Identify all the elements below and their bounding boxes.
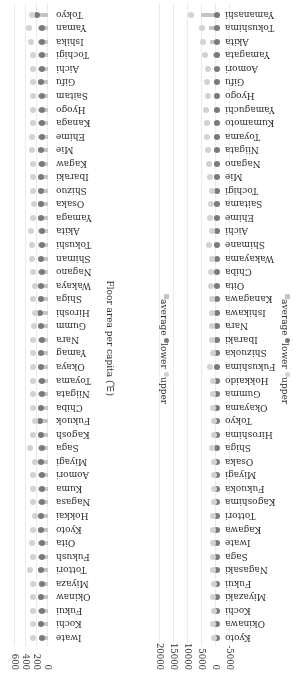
upper-dot xyxy=(204,120,210,126)
upper-dot xyxy=(209,310,215,316)
upper-dot xyxy=(30,364,36,370)
upper-dot xyxy=(30,215,36,221)
category-label: Hokkaido xyxy=(225,376,269,386)
chart-stage: -500005000100001500020000KyotoOkinawaKoc… xyxy=(0,0,298,676)
category-label: Hiroshima xyxy=(225,430,273,440)
upper-dot xyxy=(30,554,36,560)
lower-dot xyxy=(39,120,45,126)
category-label: Ishikawa xyxy=(225,308,266,318)
category-label: Yamagata xyxy=(225,50,270,60)
gridline xyxy=(187,3,188,646)
lower-dot xyxy=(214,147,220,153)
category-label: Aomori xyxy=(56,470,89,480)
lower-dot xyxy=(214,52,220,58)
lower-dot xyxy=(39,39,45,45)
category-label: Ishika xyxy=(56,37,84,47)
category-label: Shizuoka xyxy=(225,348,267,358)
lower-dot xyxy=(214,120,220,126)
category-label: Nara xyxy=(225,321,248,331)
lower-dot xyxy=(39,581,45,587)
category-label: Shiga xyxy=(225,443,251,453)
category-label: Yamanashi xyxy=(225,10,274,20)
upper-dot xyxy=(209,296,215,302)
category-label: Tochigi xyxy=(225,186,258,196)
lower-dot xyxy=(39,472,45,478)
category-label: Niigata xyxy=(56,389,90,399)
upper-dot xyxy=(30,635,36,641)
lower-dot xyxy=(39,93,45,99)
upper-dot xyxy=(29,39,35,45)
category-label: Yamaguchi xyxy=(225,105,275,115)
upper-dot xyxy=(210,391,216,397)
upper-dot xyxy=(207,364,213,370)
lower-dot xyxy=(214,242,220,248)
upper-dot xyxy=(30,432,36,438)
category-label: Fukuoka xyxy=(225,484,265,494)
lower-dot xyxy=(39,134,45,140)
category-label: Hiroshi xyxy=(56,308,90,318)
category-label: Chiba xyxy=(225,267,252,277)
upper-dot xyxy=(210,527,216,533)
upper-dot xyxy=(26,25,32,31)
category-label: Saitama xyxy=(225,199,262,209)
category-label: Kumamoto xyxy=(225,118,274,128)
category-label: Saitam xyxy=(56,91,88,101)
upper-dot xyxy=(29,147,35,153)
axis-tick-label: -5000 xyxy=(225,645,234,670)
lower-dot xyxy=(214,79,220,85)
category-label: Gumm xyxy=(56,321,86,331)
upper-dot xyxy=(206,242,212,248)
lower-dot xyxy=(39,486,45,492)
upper-dot xyxy=(211,486,217,492)
upper-dot xyxy=(29,242,35,248)
category-label: Iwate xyxy=(56,633,82,643)
lower-dot xyxy=(39,107,45,113)
lower-dot xyxy=(38,432,44,438)
upper-dot xyxy=(209,256,215,262)
category-label: Kagosh xyxy=(56,430,90,440)
category-label: Miyazaki xyxy=(225,592,266,602)
lower-dot xyxy=(214,134,220,140)
category-label: Gumma xyxy=(225,389,260,399)
upper-dot xyxy=(208,269,214,275)
category-label: Ehime xyxy=(225,213,254,223)
lower-dot xyxy=(38,323,44,329)
category-label: Yamag xyxy=(56,348,86,358)
lower-dot xyxy=(38,621,44,627)
category-label: Tokushi xyxy=(56,240,91,250)
chart-panel-regional-range: -500005000100001500020000KyotoOkinawaKoc… xyxy=(149,0,298,676)
category-label: Toyama xyxy=(56,376,91,386)
lower-dot xyxy=(37,418,43,424)
upper-dot xyxy=(27,567,33,573)
axis-tick-label: 5000 xyxy=(197,648,206,670)
category-label: Tokyo xyxy=(225,416,252,426)
upper-dot xyxy=(30,120,36,126)
legend-lower-label: lower xyxy=(280,344,290,370)
upper-dot xyxy=(30,52,36,58)
lower-dot xyxy=(39,635,45,641)
upper-dot xyxy=(30,581,36,587)
category-label: Kochi xyxy=(225,606,251,616)
category-label: Yaman xyxy=(56,23,86,33)
category-label: Okinaw xyxy=(56,592,91,602)
category-label: Yamaga xyxy=(56,213,92,223)
lower-dot xyxy=(38,296,44,302)
category-label: Osaka xyxy=(225,457,253,467)
upper-dot xyxy=(29,540,35,546)
category-label: Ibaraki xyxy=(56,172,89,182)
category-label: Saga xyxy=(225,552,248,562)
category-label: Miyaza xyxy=(56,579,89,589)
category-label: Tokushima xyxy=(225,23,274,33)
category-label: Okayama xyxy=(225,403,268,413)
lower-dot xyxy=(214,201,220,207)
upper-dot xyxy=(30,527,36,533)
lower-dot xyxy=(39,269,45,275)
category-label: Niigata xyxy=(225,145,259,155)
lower-dot xyxy=(39,242,45,248)
axis-tick-label: 200 xyxy=(32,654,41,670)
legend-right: average lower upper xyxy=(280,294,292,404)
category-label: Saga xyxy=(56,443,79,453)
lower-dot xyxy=(214,39,220,45)
lower-dot xyxy=(39,337,45,343)
lower-dot xyxy=(214,269,220,275)
